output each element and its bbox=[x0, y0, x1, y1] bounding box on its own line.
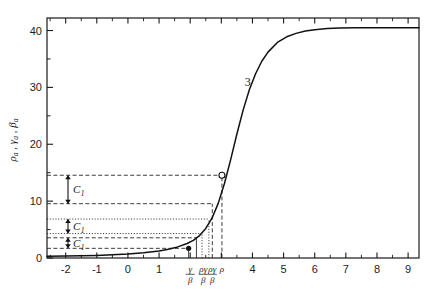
figure-root: 010203040-2-101456789γβργβργβρ3C1C1C1ρa … bbox=[0, 0, 433, 290]
c1-bracket-label: C1 bbox=[73, 183, 85, 198]
c1-bracket-label: C1 bbox=[73, 220, 85, 235]
plot-frame bbox=[47, 18, 419, 258]
x-tick-label: 1 bbox=[156, 263, 162, 275]
x-tick-label: -1 bbox=[92, 263, 102, 275]
x-tick-label: 0 bbox=[125, 263, 131, 275]
svg-text:ργ: ργ bbox=[198, 264, 207, 274]
svg-text:β: β bbox=[209, 275, 215, 285]
y-tick-label: 10 bbox=[30, 195, 42, 207]
x-fraction-label: ρ bbox=[219, 264, 225, 274]
svg-text:ργ: ργ bbox=[207, 264, 216, 274]
y-tick-label: 30 bbox=[30, 81, 42, 93]
c1-bracket-annotation: C1 bbox=[65, 219, 84, 235]
y-tick-label: 20 bbox=[30, 138, 42, 150]
x-fraction-label: ργβ bbox=[198, 264, 207, 285]
y-axis-title: ρa , γa , βa bbox=[6, 118, 20, 162]
svg-text:β: β bbox=[187, 275, 193, 285]
chart-canvas: 010203040-2-101456789γβργβργβρ3C1C1C1ρa … bbox=[0, 0, 433, 290]
svg-text:ρ: ρ bbox=[219, 264, 225, 274]
svg-text:γ: γ bbox=[188, 264, 192, 274]
x-fraction-label: ργβ bbox=[207, 264, 216, 285]
x-tick-label: 4 bbox=[249, 263, 255, 275]
data-point-filled bbox=[186, 246, 191, 251]
x-tick-label: 5 bbox=[281, 263, 287, 275]
series-label: 3 bbox=[245, 75, 251, 89]
series-curve bbox=[47, 28, 419, 257]
c1-bracket-annotation: C1 bbox=[65, 175, 84, 203]
svg-text:β: β bbox=[200, 275, 206, 285]
data-point-open bbox=[219, 172, 225, 178]
y-tick-label: 40 bbox=[30, 25, 42, 37]
x-tick-label: 8 bbox=[374, 263, 380, 275]
c1-bracket-label: C1 bbox=[73, 237, 85, 252]
x-tick-label: 7 bbox=[343, 263, 349, 275]
x-tick-label: 9 bbox=[405, 263, 411, 275]
x-tick-label: -2 bbox=[61, 263, 71, 275]
x-tick-label: 6 bbox=[312, 263, 318, 275]
y-tick-label: 0 bbox=[36, 252, 42, 264]
c1-bracket-annotation: C1 bbox=[65, 237, 84, 252]
x-fraction-label: γβ bbox=[186, 264, 195, 285]
